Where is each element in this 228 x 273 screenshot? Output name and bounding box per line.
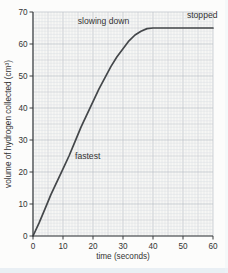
y-tick-label: 40 <box>18 104 28 113</box>
y-tick-label: 30 <box>18 136 28 145</box>
x-tick-label: 60 <box>208 242 218 251</box>
x-tick-label: 30 <box>118 242 128 251</box>
y-tick-label: 20 <box>18 168 28 177</box>
x-tick-label: 10 <box>58 242 68 251</box>
x-tick-label: 20 <box>88 242 98 251</box>
grid-lines <box>33 12 213 236</box>
y-tick-label: 10 <box>18 200 28 209</box>
y-tick-label: 70 <box>18 8 28 17</box>
x-tick-label: 50 <box>178 242 188 251</box>
y-axis-label: volume of hydrogen collected (cm³) <box>4 60 13 188</box>
y-tick-label: 0 <box>23 232 28 241</box>
scan-edge-bottom <box>0 268 228 273</box>
x-axis-label: time (seconds) <box>96 252 150 261</box>
y-tick-label: 50 <box>18 72 28 81</box>
x-tick-label: 40 <box>148 242 158 251</box>
reaction-rate-figure: 0102030405060010203040506070 time (secon… <box>0 0 228 273</box>
x-tick-label: 0 <box>31 242 36 251</box>
y-tick-label: 60 <box>18 40 28 49</box>
chart-canvas: 0102030405060010203040506070 time (secon… <box>0 0 228 273</box>
scan-edge-right <box>225 0 228 273</box>
annotation-fastest: fastest <box>75 151 101 161</box>
annotation-slowing-down: slowing down <box>78 16 130 26</box>
annotation-stopped: stopped <box>187 10 218 20</box>
